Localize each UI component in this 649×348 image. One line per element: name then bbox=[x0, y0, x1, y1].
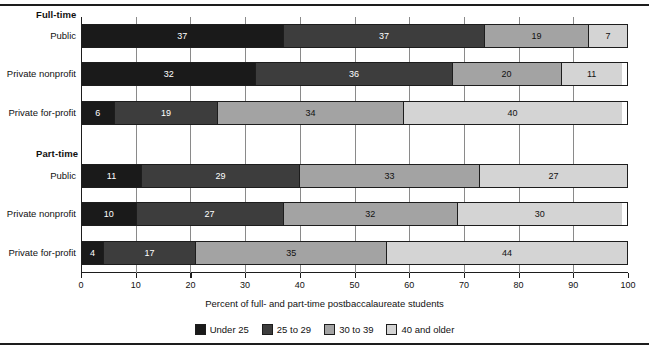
grid-tick-mark bbox=[136, 125, 137, 164]
grid-tick-mark bbox=[464, 48, 465, 62]
x-axis-title: Percent of full- and part-time postbacca… bbox=[0, 298, 649, 309]
legend-item[interactable]: Under 25 bbox=[195, 324, 249, 335]
grid-tick-mark bbox=[300, 125, 301, 164]
bar-row: 32362011 bbox=[81, 62, 628, 86]
top-divider-rule bbox=[0, 4, 649, 6]
bar-segment: 37 bbox=[284, 25, 486, 47]
grid-tick-mark bbox=[300, 265, 301, 273]
bar-segment: 27 bbox=[480, 165, 627, 187]
x-axis-tick-label: 50 bbox=[349, 280, 359, 290]
row-label-full-time-private-nonprofit: Private nonprofit bbox=[0, 68, 76, 79]
grid-tick-mark bbox=[355, 17, 356, 24]
grid-tick-mark bbox=[355, 48, 356, 62]
x-axis-tick-label: 80 bbox=[514, 280, 524, 290]
legend-item[interactable]: 30 to 39 bbox=[324, 324, 373, 335]
grid-tick-mark bbox=[245, 226, 246, 241]
bar-segment-value: 30 bbox=[535, 210, 545, 219]
grid-tick-mark bbox=[190, 48, 191, 62]
bar-segment-value: 7 bbox=[605, 32, 610, 41]
grid-tick-mark bbox=[519, 226, 520, 241]
bar-segment: 11 bbox=[82, 165, 142, 187]
grid-tick-mark bbox=[136, 86, 137, 101]
grid-tick-mark bbox=[300, 226, 301, 241]
bar-segment: 32 bbox=[82, 63, 256, 85]
grid-tick-mark bbox=[519, 17, 520, 24]
grid-tick-mark bbox=[190, 86, 191, 101]
bar-segment: 29 bbox=[142, 165, 300, 187]
bar-segment-value: 27 bbox=[205, 210, 215, 219]
row-label-part-time-private-nonprofit: Private nonprofit bbox=[0, 208, 76, 219]
grid-tick-mark bbox=[355, 265, 356, 273]
grid-tick-mark bbox=[190, 125, 191, 164]
bar-row: 10273230 bbox=[81, 202, 628, 226]
grid-tick-mark bbox=[300, 17, 301, 24]
bar-segment-value: 37 bbox=[177, 32, 187, 41]
x-axis-tick bbox=[81, 273, 82, 278]
bottom-divider-rule bbox=[0, 343, 649, 345]
bar-segment: 33 bbox=[300, 165, 480, 187]
bar-segment: 10 bbox=[82, 203, 137, 225]
grid-tick-mark bbox=[573, 188, 574, 202]
x-axis-tick-label: 0 bbox=[78, 280, 83, 290]
grid-tick-mark bbox=[300, 48, 301, 62]
grid-tick-mark bbox=[573, 86, 574, 101]
grid-tick-mark bbox=[519, 86, 520, 101]
bar-segment: 32 bbox=[284, 203, 458, 225]
bar-segment: 4 bbox=[82, 242, 104, 264]
grid-tick-mark bbox=[573, 226, 574, 241]
x-axis-tick-label: 60 bbox=[404, 280, 414, 290]
legend-label: Under 25 bbox=[210, 324, 249, 335]
grid-tick-mark bbox=[245, 48, 246, 62]
bar-segment-value: 19 bbox=[532, 32, 542, 41]
chart-legend: Under 2525 to 2930 to 3940 and older bbox=[0, 324, 649, 335]
bar-segment-value: 29 bbox=[215, 172, 225, 181]
bar-segment-value: 36 bbox=[349, 70, 359, 79]
grid-tick-mark bbox=[464, 17, 465, 24]
bar-segment-value: 32 bbox=[164, 70, 174, 79]
grid-tick-mark bbox=[519, 125, 520, 164]
grid-tick-mark bbox=[409, 188, 410, 202]
bar-segment: 20 bbox=[453, 63, 562, 85]
x-axis-tick-label: 10 bbox=[131, 280, 141, 290]
grid-tick-mark bbox=[464, 86, 465, 101]
bar-segment: 34 bbox=[218, 102, 403, 124]
legend-label: 30 to 39 bbox=[339, 324, 373, 335]
bar-segment: 44 bbox=[387, 242, 627, 264]
grid-tick-mark bbox=[573, 48, 574, 62]
legend-item[interactable]: 40 and older bbox=[386, 324, 454, 335]
x-axis-tick-label: 30 bbox=[240, 280, 250, 290]
grid-tick-mark bbox=[190, 17, 191, 24]
x-axis-tick bbox=[355, 273, 356, 278]
bar-segment-value: 40 bbox=[508, 109, 518, 118]
bar-segment: 35 bbox=[196, 242, 387, 264]
x-axis-tick-label: 100 bbox=[620, 280, 635, 290]
row-label-full-time-private-for-profit: Private for-profit bbox=[0, 107, 76, 118]
grid-tick-mark bbox=[573, 17, 574, 24]
grid-tick-mark bbox=[409, 48, 410, 62]
grid-tick-mark bbox=[245, 265, 246, 273]
bar-segment-value: 37 bbox=[379, 32, 389, 41]
x-axis-tick bbox=[300, 273, 301, 278]
row-label-part-time-private-for-profit: Private for-profit bbox=[0, 247, 76, 258]
bar-segment: 17 bbox=[104, 242, 197, 264]
x-axis-tick-label: 70 bbox=[459, 280, 469, 290]
grid-tick-mark bbox=[409, 125, 410, 164]
grid-tick-mark bbox=[300, 188, 301, 202]
bar-segment-value: 20 bbox=[502, 70, 512, 79]
bar-segment-value: 11 bbox=[587, 70, 596, 79]
bar-segment-value: 27 bbox=[548, 172, 558, 181]
grid-tick-mark bbox=[464, 188, 465, 202]
bar-segment: 30 bbox=[458, 203, 622, 225]
grid-tick-mark bbox=[409, 265, 410, 273]
grid-tick-mark bbox=[190, 265, 191, 273]
grid-tick-mark bbox=[355, 188, 356, 202]
x-axis-tick bbox=[245, 273, 246, 278]
grid-tick-mark bbox=[355, 86, 356, 101]
grid-tick-mark bbox=[136, 265, 137, 273]
grid-tick-mark bbox=[245, 125, 246, 164]
bar-segment-value: 19 bbox=[161, 109, 171, 118]
legend-item[interactable]: 25 to 29 bbox=[262, 324, 311, 335]
grid-tick-mark bbox=[136, 226, 137, 241]
legend-label: 25 to 29 bbox=[277, 324, 311, 335]
bar-segment: 19 bbox=[485, 25, 589, 47]
